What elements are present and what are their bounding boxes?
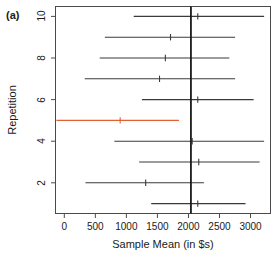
y-axis-tick-label: 2 — [37, 180, 47, 186]
x-axis-tick-label: 2000 — [177, 222, 199, 232]
y-axis-tick-label: 10 — [37, 11, 47, 22]
x-axis-tick-label: 1500 — [146, 222, 168, 232]
y-axis-label: Repetition — [7, 85, 18, 135]
panel-label: (a) — [6, 10, 19, 21]
confidence-interval-figure: (a) 050010001500200025003000 246810 Samp… — [0, 0, 279, 262]
plot-frame — [55, 6, 271, 214]
x-axis-label: Sample Mean (in $s) — [55, 239, 271, 250]
y-axis-tick-label: 4 — [37, 138, 47, 144]
x-axis-tick-label: 2500 — [208, 222, 230, 232]
y-axis-tick-label: 8 — [37, 55, 47, 61]
x-axis-tick-label: 0 — [62, 222, 68, 232]
y-axis-tick-label: 6 — [37, 97, 47, 103]
x-axis-tick-label: 3000 — [239, 222, 261, 232]
x-axis-tick-label: 1000 — [115, 222, 137, 232]
x-axis-tick-label: 500 — [87, 222, 104, 232]
